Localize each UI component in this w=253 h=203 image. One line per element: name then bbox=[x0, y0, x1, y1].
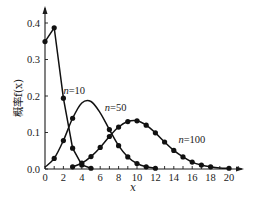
y-tick-label: 0.0 bbox=[27, 164, 40, 175]
axes: 024681012141618200.00.10.20.30.4 bbox=[27, 6, 244, 183]
data-point bbox=[52, 25, 57, 30]
y-tick-label: 0.1 bbox=[27, 127, 40, 138]
x-axis-label: x bbox=[130, 181, 136, 193]
curve-n-10 bbox=[45, 28, 91, 169]
data-point bbox=[52, 156, 57, 161]
y-tick-label: 0.3 bbox=[27, 54, 40, 65]
data-point bbox=[171, 148, 176, 153]
x-tick-label: 8 bbox=[116, 172, 121, 183]
y-axis-arrow-icon bbox=[43, 6, 48, 14]
data-point bbox=[153, 130, 158, 135]
data-point bbox=[144, 164, 149, 169]
data-point bbox=[134, 161, 139, 166]
data-point bbox=[70, 164, 75, 169]
data-point bbox=[162, 139, 167, 144]
x-tick-label: 0 bbox=[42, 172, 47, 183]
series-n-50 bbox=[45, 100, 158, 170]
data-point bbox=[125, 119, 130, 124]
series-n-100 bbox=[70, 118, 232, 171]
data-point bbox=[199, 162, 204, 167]
x-tick-label: 6 bbox=[98, 172, 103, 183]
data-point bbox=[61, 96, 66, 101]
series-labels: n=10n=50n=100 bbox=[63, 85, 205, 145]
curves bbox=[42, 25, 231, 171]
series-label-n-100: n=100 bbox=[178, 134, 205, 145]
curve-n-100 bbox=[73, 121, 229, 169]
y-axis-label: 概率f(x) bbox=[12, 79, 24, 117]
data-point bbox=[116, 124, 121, 129]
data-point bbox=[98, 145, 103, 150]
data-point bbox=[116, 143, 121, 148]
data-point bbox=[42, 39, 47, 44]
series-n-10 bbox=[42, 25, 93, 171]
data-point bbox=[88, 166, 93, 171]
probability-chart: 024681012141618200.00.10.20.30.4 n=10n=5… bbox=[0, 0, 253, 203]
data-point bbox=[125, 154, 130, 159]
data-point bbox=[107, 134, 112, 139]
y-tick-label: 0.4 bbox=[27, 18, 41, 29]
x-tick-label: 2 bbox=[61, 172, 66, 183]
x-axis-arrow-icon bbox=[236, 167, 244, 172]
x-tick-label: 20 bbox=[224, 172, 235, 183]
data-point bbox=[70, 146, 75, 151]
series-label-n-50: n=50 bbox=[105, 102, 127, 113]
x-tick-label: 12 bbox=[150, 172, 161, 183]
data-point bbox=[88, 154, 93, 159]
data-point bbox=[226, 166, 231, 171]
data-point bbox=[190, 159, 195, 164]
x-tick-label: 16 bbox=[187, 172, 198, 183]
data-point bbox=[208, 164, 213, 169]
data-point bbox=[144, 123, 149, 128]
data-point bbox=[153, 166, 158, 171]
data-point bbox=[107, 127, 112, 132]
data-point bbox=[134, 118, 139, 123]
x-tick-label: 18 bbox=[205, 172, 216, 183]
data-point bbox=[70, 116, 75, 121]
series-label-n-10: n=10 bbox=[63, 85, 85, 96]
data-point bbox=[79, 161, 84, 166]
x-tick-label: 14 bbox=[169, 172, 180, 183]
x-tick-label: 4 bbox=[79, 172, 85, 183]
curve-n-50 bbox=[45, 100, 155, 168]
data-point bbox=[61, 138, 66, 143]
y-tick-label: 0.2 bbox=[27, 91, 40, 102]
data-point bbox=[180, 154, 185, 159]
